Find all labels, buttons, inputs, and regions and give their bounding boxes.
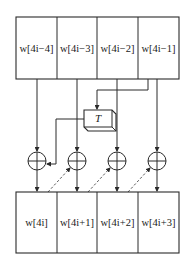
dashed-arrow-feedback — [48, 168, 70, 192]
word-cell-w4i-plus-3: w[4i+3] — [142, 217, 176, 228]
feedback-dashed-arrows — [48, 168, 150, 192]
xor-icon — [28, 152, 46, 170]
dashed-arrow-feedback — [88, 168, 110, 192]
xor-row — [28, 152, 166, 170]
dashed-arrow-feedback — [128, 168, 150, 192]
word-cell-w4i-minus-2: w[4i−2] — [101, 43, 135, 54]
word-cell-w4i-minus-4: w[4i−4] — [20, 43, 54, 54]
word-cell-w4i-minus-3: w[4i−3] — [60, 43, 94, 54]
t-function-box: T — [84, 110, 116, 131]
key-expansion-diagram: w[4i−4] w[4i−3] w[4i−2] w[4i−1] T — [0, 0, 192, 270]
t-function-label: T — [95, 112, 102, 124]
arrow-t-to-xor-1 — [47, 119, 84, 164]
word-cell-w4i-plus-2: w[4i+2] — [101, 217, 135, 228]
word-cell-w4i: w[4i] — [25, 217, 48, 228]
word-cell-w4i-plus-1: w[4i+1] — [60, 217, 94, 228]
bottom-word-row: w[4i] w[4i+1] w[4i+2] w[4i+3] — [16, 192, 179, 253]
top-word-row: w[4i−4] w[4i−3] w[4i−2] w[4i−1] — [16, 17, 179, 79]
word-cell-w4i-minus-1: w[4i−1] — [142, 43, 176, 54]
xor-icon — [148, 152, 166, 170]
arrow-to-t-function — [97, 79, 148, 109]
xor-icon — [68, 152, 86, 170]
xor-icon — [108, 152, 126, 170]
